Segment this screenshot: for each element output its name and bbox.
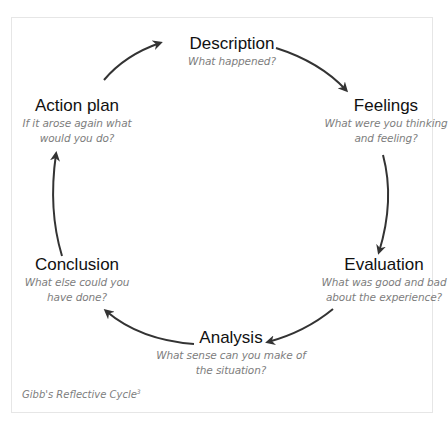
stage-subtitle-line: have done? <box>25 290 130 305</box>
arrow-action-plan-to-description <box>104 43 160 80</box>
arrow-feelings-to-evaluation <box>379 155 388 252</box>
stage-subtitle-line: the situation? <box>156 363 306 378</box>
stage-description: Description What happened? <box>188 34 276 69</box>
stage-subtitle-line: What happened? <box>188 54 276 69</box>
stage-subtitle-line: about the experience? <box>321 290 446 305</box>
arrow-description-to-feelings <box>276 48 346 90</box>
stage-title: Conclusion <box>25 255 130 275</box>
stage-subtitle-line: What else could you <box>25 275 130 290</box>
stage-subtitle-line: would you do? <box>23 131 132 146</box>
stage-title: Analysis <box>156 328 306 348</box>
caption-text: Gibb's Reflective Cycle <box>22 389 137 400</box>
stage-feelings: Feelings What were you thinking and feel… <box>324 96 447 146</box>
stage-action-plan: Action plan If it arose again what would… <box>23 96 132 146</box>
stage-subtitle-line: What was good and bad <box>321 275 446 290</box>
figure-caption: Gibb's Reflective Cycle3 <box>22 388 141 400</box>
stage-title: Action plan <box>23 96 132 116</box>
caption-footnote-ref: 3 <box>137 388 141 395</box>
stage-conclusion: Conclusion What else could you have done… <box>25 255 130 305</box>
stage-analysis: Analysis What sense can you make of the … <box>156 328 306 378</box>
stage-subtitle-line: What sense can you make of <box>156 348 306 363</box>
arrow-conclusion-to-action-plan <box>53 154 62 256</box>
stage-subtitle-line: If it arose again what <box>23 116 132 131</box>
stage-subtitle-line: What were you thinking <box>324 116 447 131</box>
stage-title: Evaluation <box>321 255 446 275</box>
stage-title: Feelings <box>324 96 447 116</box>
stage-subtitle-line: and feeling? <box>324 131 447 146</box>
stage-title: Description <box>188 34 276 54</box>
stage-evaluation: Evaluation What was good and bad about t… <box>321 255 446 305</box>
